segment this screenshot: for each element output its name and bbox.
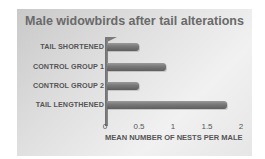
x-tick: 1 xyxy=(171,122,175,131)
x-tick: 1.5 xyxy=(201,122,212,131)
bar-tail-shortened xyxy=(107,43,139,51)
category-label: CONTROL GROUP 2 xyxy=(33,81,104,90)
category-label: TAIL LENGTHENED xyxy=(36,100,104,109)
x-axis-label: MEAN NUMBER OF NESTS PER MALE xyxy=(105,133,243,142)
category-label: TAIL SHORTENED xyxy=(40,42,104,51)
x-tick: 0 xyxy=(103,122,107,131)
category-label: CONTROL GROUP 1 xyxy=(33,62,104,71)
bar-control-group-1 xyxy=(107,63,166,71)
bar-tail-lengthened xyxy=(107,101,227,109)
x-tick: 0.5 xyxy=(133,122,144,131)
bar-control-group-2 xyxy=(107,82,139,90)
chart-panel: Male widowbirds after tail alterations T… xyxy=(17,9,252,156)
x-tick: 2 xyxy=(239,122,243,131)
chart-title: Male widowbirds after tail alterations xyxy=(17,14,252,28)
